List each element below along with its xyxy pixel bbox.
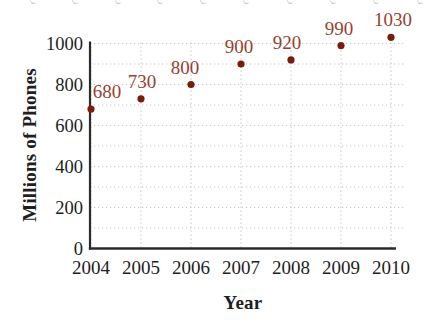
phones-scatter-chart-figure: Millions of Phones Year 0200400600800100… bbox=[0, 0, 425, 322]
data-point-label-2005: 730 bbox=[128, 71, 157, 92]
x-tick-label-2010: 2010 bbox=[372, 257, 410, 278]
data-point-label-2006: 800 bbox=[171, 57, 200, 78]
data-point-label-2009: 990 bbox=[325, 18, 354, 39]
x-tick-label-2007: 2007 bbox=[222, 257, 260, 278]
data-point-label-2004: 680 bbox=[93, 81, 122, 102]
x-tick-label-2005: 2005 bbox=[122, 257, 160, 278]
data-point-2005 bbox=[137, 95, 144, 102]
data-point-2006 bbox=[187, 81, 194, 88]
x-tick-label-2004: 2004 bbox=[72, 257, 111, 278]
data-point-2010 bbox=[387, 34, 394, 41]
scatter-plot-canvas: 0200400600800100020042005200620072008200… bbox=[0, 0, 425, 322]
data-point-2004 bbox=[87, 106, 94, 113]
y-tick-label-1000: 1000 bbox=[46, 34, 83, 54]
data-point-label-2010: 1030 bbox=[374, 9, 412, 30]
data-point-2009 bbox=[337, 42, 344, 49]
y-tick-label-0: 0 bbox=[74, 239, 83, 259]
x-tick-label-2009: 2009 bbox=[322, 257, 360, 278]
x-tick-label-2006: 2006 bbox=[172, 257, 210, 278]
y-tick-label-200: 200 bbox=[55, 198, 83, 218]
y-tick-label-800: 800 bbox=[55, 75, 83, 95]
data-point-label-2007: 900 bbox=[225, 36, 254, 57]
y-tick-label-600: 600 bbox=[55, 116, 83, 136]
data-point-2007 bbox=[237, 60, 244, 67]
x-tick-label-2008: 2008 bbox=[272, 257, 310, 278]
data-point-label-2008: 920 bbox=[273, 32, 302, 53]
y-tick-label-400: 400 bbox=[55, 157, 83, 177]
data-point-2008 bbox=[287, 56, 294, 63]
